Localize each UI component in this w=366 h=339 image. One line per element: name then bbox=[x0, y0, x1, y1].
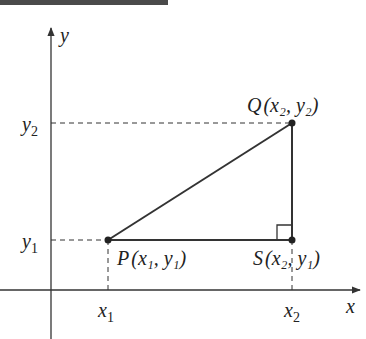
point-P-label: P(x₁, y₁) bbox=[116, 247, 187, 270]
distance-triangle-diagram: y x y2 y1 x1 x2 Q(x₂, y₂) P(x₁, y₁) S(x₂… bbox=[0, 0, 366, 339]
point-Q bbox=[289, 120, 296, 127]
point-Q-label: Q(x₂, y₂) bbox=[247, 94, 319, 117]
point-P bbox=[105, 237, 112, 244]
x-axis-label: x bbox=[345, 295, 355, 317]
y1-tick-label: y1 bbox=[20, 230, 38, 256]
point-S-label: S(x₂, y₁) bbox=[253, 247, 320, 270]
y2-tick-label: y2 bbox=[20, 113, 38, 139]
hypotenuse-PQ bbox=[108, 123, 292, 240]
x2-tick-label: x2 bbox=[283, 299, 300, 325]
y-axis-label: y bbox=[58, 24, 69, 47]
point-S bbox=[289, 237, 296, 244]
x1-tick-label: x1 bbox=[97, 299, 114, 325]
